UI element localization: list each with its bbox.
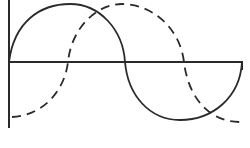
wave-diagram-canvas (0, 0, 250, 148)
wave-diagram (0, 0, 250, 148)
